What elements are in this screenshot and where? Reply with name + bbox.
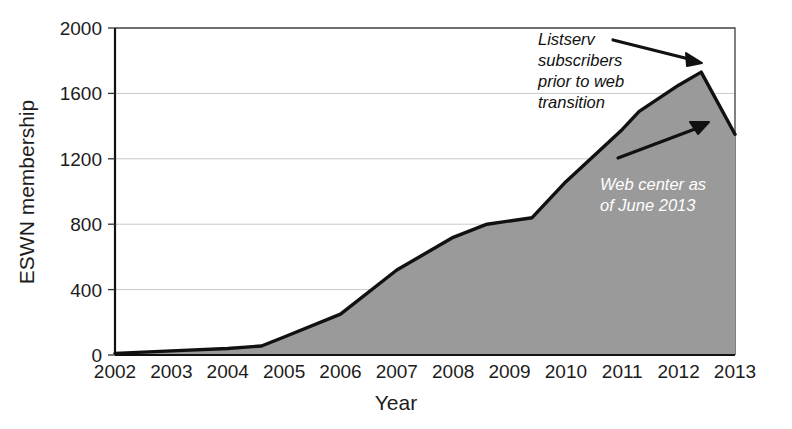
x-tick-label-2005: 2005 bbox=[263, 361, 305, 382]
x-tick-label-2010: 2010 bbox=[545, 361, 587, 382]
x-tick-label-2003: 2003 bbox=[150, 361, 192, 382]
x-tick-label-2006: 2006 bbox=[319, 361, 361, 382]
x-tick-label-2008: 2008 bbox=[432, 361, 474, 382]
x-tick-label-2011: 2011 bbox=[602, 361, 643, 382]
annotation-web-center-line-1: Web center as bbox=[600, 175, 706, 193]
annotation-web-center-line-2: of June 2013 bbox=[600, 196, 696, 214]
eswn-membership-area-chart: 0400800120016002000 20022003200420052006… bbox=[0, 0, 792, 429]
x-tick-label-2002: 2002 bbox=[94, 361, 136, 382]
x-tick-label-2007: 2007 bbox=[376, 361, 418, 382]
y-tick-label-1200: 1200 bbox=[60, 149, 102, 170]
annotation-listserv-line-2: subscribers bbox=[538, 51, 622, 69]
x-tick-label-2009: 2009 bbox=[488, 361, 530, 382]
y-tick-label-400: 400 bbox=[70, 280, 102, 301]
x-tick-label-2013: 2013 bbox=[714, 361, 756, 382]
y-tick-label-1600: 1600 bbox=[60, 83, 102, 104]
annotation-listserv-line-3: prior to web bbox=[537, 72, 624, 90]
y-tick-label-800: 800 bbox=[70, 214, 102, 235]
chart-figure: 0400800120016002000 20022003200420052006… bbox=[0, 0, 792, 429]
x-axis-title: Year bbox=[375, 391, 417, 414]
annotation-listserv-line-1: Listserv bbox=[538, 30, 597, 48]
x-tick-label-2004: 2004 bbox=[207, 361, 250, 382]
y-axis-title: ESWN membership bbox=[15, 100, 38, 284]
y-tick-label-2000: 2000 bbox=[60, 18, 102, 39]
annotation-listserv-line-4: transition bbox=[538, 93, 605, 111]
x-tick-label-2012: 2012 bbox=[657, 361, 699, 382]
